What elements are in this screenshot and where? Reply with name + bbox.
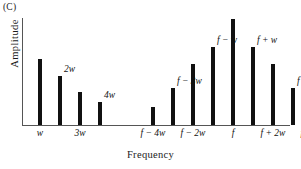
bar-label-f+w: f + w: [257, 35, 277, 45]
bar-label-f: f: [232, 128, 235, 138]
plot-area: w2w3w4wf − 4wf − 3wf − 2wf − wff + wf + …: [22, 18, 294, 126]
x-axis-title: Frequency: [0, 149, 301, 160]
bar-label-f-3w: f − 3w: [177, 76, 202, 86]
y-axis-title: Amplitude: [9, 8, 20, 80]
bar-label-w: w: [37, 128, 43, 138]
bar-f+w: [251, 47, 255, 125]
bar-f+3w: [291, 88, 295, 125]
bar-f-3w: [171, 88, 175, 125]
bar-label-f+2w: f + 2w: [261, 128, 286, 138]
bar-4w: [98, 102, 102, 125]
y-axis-line: [22, 18, 23, 126]
figure-panel: (C) Amplitude w2w3w4wf − 4wf − 3wf − 2wf…: [0, 0, 301, 169]
bar-label-f-w: f − w: [217, 35, 237, 45]
bar-label-4w: 4w: [104, 90, 115, 100]
bar-label-3w: 3w: [74, 128, 85, 138]
bar-label-f-4w: f − 4w: [141, 128, 166, 138]
bar-label-f-2w: f − 2w: [181, 128, 206, 138]
bar-f+2w: [271, 64, 275, 125]
bar-f-w: [211, 47, 215, 125]
bar-label-2w: 2w: [64, 64, 75, 74]
bar-f-2w: [191, 64, 195, 125]
bar-2w: [58, 76, 62, 125]
bar-w: [38, 59, 42, 125]
bar-label-f+3w: f + 3w: [297, 76, 301, 86]
bar-3w: [78, 92, 82, 125]
bar-f-4w: [151, 107, 155, 125]
x-axis-line: [22, 125, 290, 126]
